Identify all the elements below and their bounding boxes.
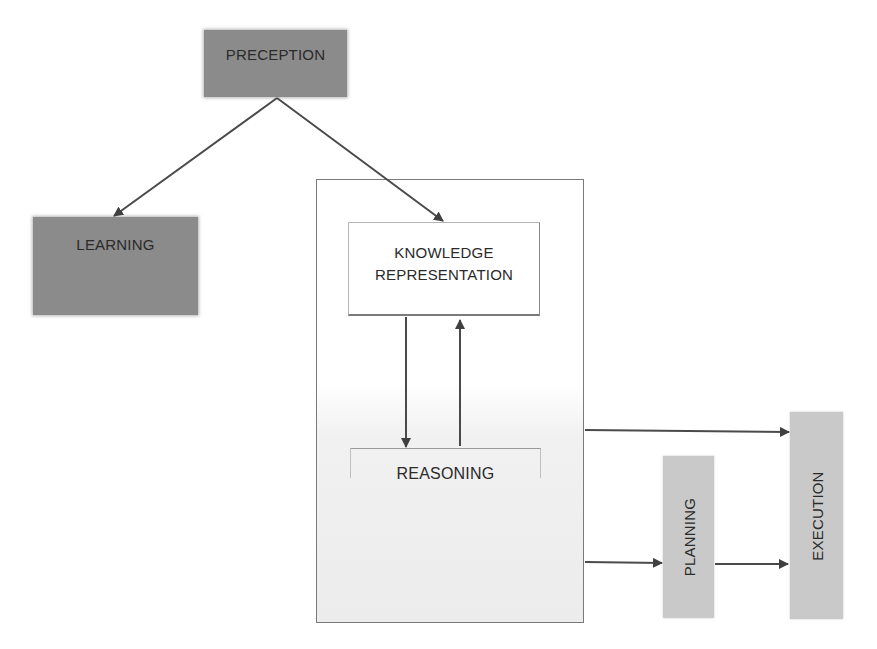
- node-execution-label: EXECUTION: [808, 471, 825, 560]
- node-execution: EXECUTION: [790, 412, 843, 619]
- node-perception: PRECEPTION: [204, 30, 347, 97]
- node-knowledge-representation: KNOWLEDGE REPRESENTATION: [348, 222, 540, 316]
- diagram-canvas: PRECEPTION LEARNING KNOWLEDGE REPRESENTA…: [0, 0, 877, 649]
- node-learning-label: LEARNING: [33, 236, 198, 253]
- node-reasoning: REASONING: [350, 448, 541, 478]
- node-knowledge-label-line1: KNOWLEDGE: [349, 242, 539, 264]
- arrow-group-to-planning: [585, 562, 662, 563]
- arrow-perception-to-learning: [114, 98, 277, 216]
- node-knowledge-label-line2: REPRESENTATION: [349, 264, 539, 286]
- node-learning: LEARNING: [33, 217, 198, 315]
- node-planning: PLANNING: [663, 456, 714, 618]
- node-planning-label: PLANNING: [680, 498, 697, 576]
- node-perception-label: PRECEPTION: [204, 46, 347, 63]
- arrow-group-to-execution: [585, 430, 789, 432]
- node-reasoning-label: REASONING: [351, 465, 540, 483]
